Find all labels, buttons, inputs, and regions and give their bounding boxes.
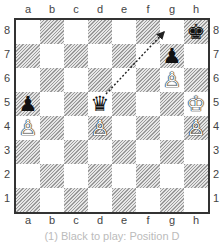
file-label-a: a xyxy=(16,214,40,226)
square-e4 xyxy=(112,116,136,140)
rank-label-6: 6 xyxy=(210,72,222,84)
square-f4 xyxy=(136,116,160,140)
white-pawn-icon: ♙ xyxy=(16,116,40,140)
square-h6 xyxy=(184,68,208,92)
white-pawn-icon: ♙ xyxy=(184,116,208,140)
square-c7 xyxy=(64,44,88,68)
square-a6 xyxy=(16,68,40,92)
rank-label-8: 8 xyxy=(210,24,222,36)
file-label-b: b xyxy=(40,214,64,226)
square-e2 xyxy=(112,164,136,188)
rank-label-5: 5 xyxy=(1,96,13,108)
rank-label-8: 8 xyxy=(1,24,13,36)
rank-label-1: 1 xyxy=(210,192,222,204)
square-f3 xyxy=(136,140,160,164)
square-d8 xyxy=(88,20,112,44)
square-g4 xyxy=(160,116,184,140)
square-c8 xyxy=(64,20,88,44)
diagram-caption: (1) Black to play: Position D xyxy=(0,230,224,242)
square-e7 xyxy=(112,44,136,68)
black-queen-icon: ♛ xyxy=(88,92,112,116)
white-pawn-icon: ♙ xyxy=(160,68,184,92)
square-c6 xyxy=(64,68,88,92)
rank-label-7: 7 xyxy=(210,48,222,60)
rank-label-3: 3 xyxy=(1,144,13,156)
rank-label-6: 6 xyxy=(1,72,13,84)
file-label-b: b xyxy=(40,3,64,15)
file-label-e: e xyxy=(112,214,136,226)
square-e3 xyxy=(112,140,136,164)
rank-label-3: 3 xyxy=(210,144,222,156)
file-label-g: g xyxy=(160,3,184,15)
square-g1 xyxy=(160,188,184,212)
square-g2 xyxy=(160,164,184,188)
file-label-h: h xyxy=(184,3,208,15)
rank-label-4: 4 xyxy=(1,120,13,132)
square-b1 xyxy=(40,188,64,212)
square-b7 xyxy=(40,44,64,68)
square-d7 xyxy=(88,44,112,68)
black-pawn-icon: ♟ xyxy=(160,44,184,68)
white-pawn-icon: ♙ xyxy=(88,116,112,140)
square-b6 xyxy=(40,68,64,92)
square-e1 xyxy=(112,188,136,212)
square-d1 xyxy=(88,188,112,212)
square-d2 xyxy=(88,164,112,188)
black-king-icon: ♚ xyxy=(184,20,208,44)
square-g5 xyxy=(160,92,184,116)
square-h7 xyxy=(184,44,208,68)
square-e6 xyxy=(112,68,136,92)
square-a3 xyxy=(16,140,40,164)
square-b4 xyxy=(40,116,64,140)
square-h2 xyxy=(184,164,208,188)
rank-label-5: 5 xyxy=(210,96,222,108)
chess-board: ♚♟♙♛♔♟♙♙♙ xyxy=(14,18,210,214)
square-f5 xyxy=(136,92,160,116)
square-c5 xyxy=(64,92,88,116)
square-f7 xyxy=(136,44,160,68)
file-label-g: g xyxy=(160,214,184,226)
rank-label-4: 4 xyxy=(210,120,222,132)
black-pawn-icon: ♟ xyxy=(16,92,40,116)
square-f1 xyxy=(136,188,160,212)
square-a2 xyxy=(16,164,40,188)
square-c1 xyxy=(64,188,88,212)
square-a1 xyxy=(16,188,40,212)
square-b5 xyxy=(40,92,64,116)
square-a8 xyxy=(16,20,40,44)
white-king-icon: ♔ xyxy=(184,92,208,116)
square-e8 xyxy=(112,20,136,44)
square-c3 xyxy=(64,140,88,164)
rank-label-2: 2 xyxy=(210,168,222,180)
file-label-h: h xyxy=(184,214,208,226)
file-label-c: c xyxy=(64,3,88,15)
square-g3 xyxy=(160,140,184,164)
square-h1 xyxy=(184,188,208,212)
rank-label-7: 7 xyxy=(1,48,13,60)
square-f6 xyxy=(136,68,160,92)
file-label-d: d xyxy=(88,3,112,15)
file-label-f: f xyxy=(136,214,160,226)
file-label-e: e xyxy=(112,3,136,15)
square-e5 xyxy=(112,92,136,116)
rank-label-2: 2 xyxy=(1,168,13,180)
square-f8 xyxy=(136,20,160,44)
file-label-a: a xyxy=(16,3,40,15)
file-label-d: d xyxy=(88,214,112,226)
square-c4 xyxy=(64,116,88,140)
file-label-f: f xyxy=(136,3,160,15)
file-label-c: c xyxy=(64,214,88,226)
square-g8 xyxy=(160,20,184,44)
square-a7 xyxy=(16,44,40,68)
square-b2 xyxy=(40,164,64,188)
square-f2 xyxy=(136,164,160,188)
square-c2 xyxy=(64,164,88,188)
square-b3 xyxy=(40,140,64,164)
rank-label-1: 1 xyxy=(1,192,13,204)
square-b8 xyxy=(40,20,64,44)
square-d3 xyxy=(88,140,112,164)
square-h3 xyxy=(184,140,208,164)
square-d6 xyxy=(88,68,112,92)
